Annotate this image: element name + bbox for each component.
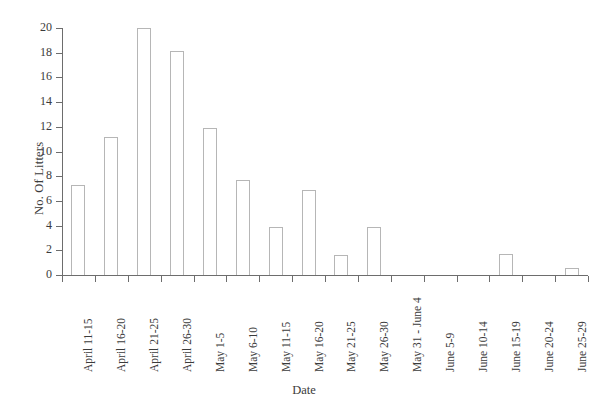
y-tick-label: 14 <box>40 94 52 109</box>
x-tick-label: June 20-24 <box>543 321 555 372</box>
bar <box>565 268 579 275</box>
y-tick-label: 18 <box>40 45 52 60</box>
y-tick: 14 <box>56 102 62 103</box>
bar-chart: No. Of Litters 02468101214161820 April 1… <box>0 0 608 414</box>
x-tick <box>588 276 589 282</box>
x-tick-label: June 25-29 <box>576 321 588 372</box>
bar <box>203 128 217 275</box>
x-tick-label: May 21-25 <box>345 321 357 372</box>
bar <box>137 28 151 275</box>
bar <box>302 190 316 275</box>
y-tick: 20 <box>56 28 62 29</box>
x-tick-label: May 16-20 <box>313 321 325 372</box>
x-tick-label: May 6-10 <box>247 327 259 372</box>
y-tick: 8 <box>56 176 62 177</box>
x-tick-label: June 5-9 <box>444 333 456 372</box>
x-tick-label: May 26-30 <box>378 321 390 372</box>
bar <box>104 137 118 275</box>
x-tick-label: June 15-19 <box>510 321 522 372</box>
y-tick-label: 0 <box>46 267 52 282</box>
x-axis-title: Date <box>0 383 608 398</box>
bar <box>367 227 381 275</box>
x-tick-label: May 1-5 <box>214 333 226 372</box>
bar <box>236 180 250 275</box>
x-tick-label: May 31 - June 4 <box>411 297 423 372</box>
y-axis-line <box>62 28 63 275</box>
y-tick: 18 <box>56 53 62 54</box>
y-tick-label: 2 <box>46 242 52 257</box>
y-tick-label: 20 <box>40 20 52 35</box>
y-tick-label: 4 <box>46 218 52 233</box>
y-tick: 2 <box>56 250 62 251</box>
y-tick-label: 6 <box>46 193 52 208</box>
x-axis-labels: April 11-15April 16-20April 21-25April 2… <box>62 276 588 376</box>
x-tick-label: April 11-15 <box>82 318 94 372</box>
bar <box>334 255 348 275</box>
y-tick-label: 12 <box>40 119 52 134</box>
x-tick-label: April 16-20 <box>115 318 127 372</box>
x-tick-label: April 26-30 <box>181 318 193 372</box>
bar <box>499 254 513 275</box>
x-tick-label: June 10-14 <box>477 321 489 372</box>
y-tick-label: 10 <box>40 144 52 159</box>
y-tick: 10 <box>56 152 62 153</box>
bar <box>269 227 283 275</box>
y-tick-label: 16 <box>40 69 52 84</box>
y-tick-label: 8 <box>46 168 52 183</box>
y-tick: 4 <box>56 226 62 227</box>
y-tick: 12 <box>56 127 62 128</box>
plot-area: 02468101214161820 <box>62 28 588 275</box>
y-tick: 16 <box>56 77 62 78</box>
bar <box>71 185 85 275</box>
x-tick-label: April 21-25 <box>148 318 160 372</box>
bar <box>170 51 184 275</box>
y-tick: 6 <box>56 201 62 202</box>
x-tick-label: May 11-15 <box>280 322 292 372</box>
